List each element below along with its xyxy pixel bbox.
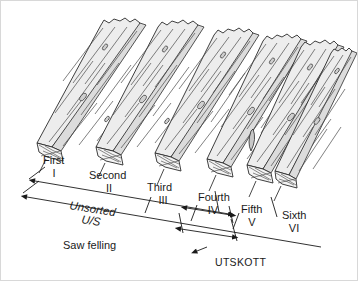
grade-label-first-numeral: I <box>52 167 55 179</box>
tick-fifth <box>233 213 239 229</box>
grade-label-fourth-name: Fourth <box>198 191 230 203</box>
label-unsorted-abbrev: U/S <box>81 213 102 228</box>
bracket-connector-utskott-right <box>231 219 237 241</box>
grade-label-third-name: Third <box>147 181 172 193</box>
grade-label-sixth-name-text: Sixth <box>282 209 306 221</box>
grade-label-first-name: First <box>43 154 64 166</box>
label-saw-felling: Saw felling <box>63 239 116 251</box>
leader-fourth <box>209 175 216 191</box>
bracket-utskott-leader <box>197 247 207 251</box>
label-utskott: UTSKOTT <box>215 256 266 268</box>
boards-group <box>37 18 357 188</box>
leader-sixth <box>274 186 281 201</box>
figure-container: First I Second II Third III Fourth IV Fi… <box>0 0 358 281</box>
grade-label-fifth-name: Fifth <box>241 203 262 215</box>
bracket-tick-left-top <box>29 167 45 179</box>
tick-third <box>145 197 151 213</box>
grade-label-second-name: Second <box>89 169 126 181</box>
bracket-tick-left-bottom <box>23 181 39 193</box>
grade-label-fourth-numeral: IV <box>208 204 219 216</box>
grade-label-second-numeral: II <box>106 182 112 194</box>
bracket-connector-sixth-right <box>271 197 277 217</box>
bracket-labels: Unsorted U/S Saw felling UTSKOTT <box>63 199 266 268</box>
timber-grading-diagram: First I Second II Third III Fourth IV Fi… <box>1 1 358 281</box>
grade-label-third-numeral: III <box>158 194 167 206</box>
bracket-utskott <box>181 229 233 237</box>
grade-label-fifth-numeral: V <box>248 216 256 228</box>
leader-fifth <box>249 181 256 197</box>
grade-label-sixth-numeral: VI <box>289 222 299 234</box>
